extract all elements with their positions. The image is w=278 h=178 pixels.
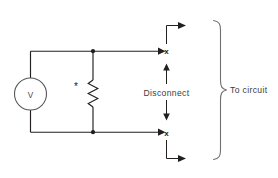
source-symbol-label: V <box>28 91 34 100</box>
circuit-schematic-svg: V * x x <box>0 0 278 178</box>
resistor-branch: * <box>74 51 98 132</box>
resistor-zigzag-body <box>88 80 98 107</box>
lower-terminal-feed: x <box>93 129 169 139</box>
upper-circuit-lead <box>167 22 187 44</box>
lower-terminal-x-marker: x <box>164 129 169 138</box>
lower-circuit-lead-arrowhead <box>178 155 186 162</box>
to-circuit-brace <box>214 21 227 160</box>
lower-circuit-lead <box>167 140 187 162</box>
upper-circuit-lead-arrowhead <box>178 22 186 29</box>
lower-circuit-lead-path <box>167 140 179 159</box>
circuit-diagram: V * x x <box>0 0 278 178</box>
voltage-source-symbol: V <box>15 78 47 110</box>
upper-terminal-feed: x <box>93 47 169 56</box>
brace-outline <box>214 21 227 160</box>
disconnect-label: Disconnect <box>143 88 189 98</box>
left-loop-wiring <box>31 51 94 132</box>
upper-circuit-lead-path <box>167 26 179 45</box>
to-circuit-label: To circuit <box>230 85 268 95</box>
disconnect-annotation: Disconnect <box>143 64 189 121</box>
upper-terminal-x-marker: x <box>164 47 169 56</box>
disconnect-down-arrowhead <box>163 114 170 121</box>
resistor-asterisk-marker: * <box>74 81 78 92</box>
disconnect-up-arrowhead <box>163 64 170 71</box>
